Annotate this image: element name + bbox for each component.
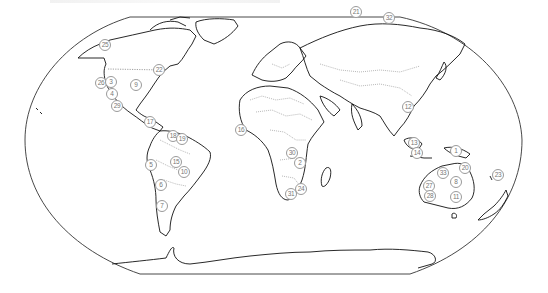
map-marker-16[interactable]: 16	[235, 124, 247, 136]
map-marker-14[interactable]: 14	[411, 147, 423, 159]
map-marker-19[interactable]: 19	[176, 133, 188, 145]
map-marker-25[interactable]: 25	[99, 39, 111, 51]
map-marker-9[interactable]: 9	[130, 79, 142, 91]
map-marker-20[interactable]: 20	[459, 162, 471, 174]
map-marker-29[interactable]: 29	[111, 100, 123, 112]
europe-outline	[252, 42, 306, 81]
map-marker-5[interactable]: 5	[145, 159, 157, 171]
world-map	[0, 0, 548, 293]
map-marker-11[interactable]: 11	[450, 191, 462, 203]
map-marker-24[interactable]: 24	[295, 183, 307, 195]
map-marker-2[interactable]: 2	[294, 157, 306, 169]
land-outlines	[36, 17, 508, 268]
map-marker-8[interactable]: 8	[450, 176, 462, 188]
map-marker-3[interactable]: 3	[105, 76, 117, 88]
map-marker-22[interactable]: 22	[153, 64, 165, 76]
map-marker-6[interactable]: 6	[155, 179, 167, 191]
map-marker-10[interactable]: 10	[178, 166, 190, 178]
map-marker-7[interactable]: 7	[156, 200, 168, 212]
map-marker-32[interactable]: 32	[383, 12, 395, 24]
globe-outline	[25, 17, 522, 274]
map-marker-4[interactable]: 4	[106, 88, 118, 100]
map-marker-28[interactable]: 28	[424, 190, 436, 202]
country-borders	[156, 64, 420, 186]
map-marker-33[interactable]: 33	[437, 167, 449, 179]
map-marker-23[interactable]: 23	[492, 169, 504, 181]
antarctica-outline	[112, 247, 435, 268]
map-marker-17[interactable]: 17	[144, 116, 156, 128]
greenland-outline	[196, 19, 238, 44]
map-marker-12[interactable]: 12	[402, 101, 414, 113]
map-marker-21[interactable]: 21	[350, 6, 362, 18]
africa-outline	[239, 86, 324, 200]
map-marker-1[interactable]: 1	[450, 145, 462, 157]
madagascar-outline	[321, 167, 331, 186]
